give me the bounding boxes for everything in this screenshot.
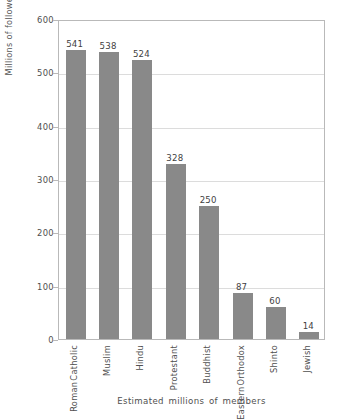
y-axis-tick-label: 0	[24, 335, 54, 345]
y-axis-tick-label: 400	[24, 122, 54, 132]
y-axis-tick-label: 500	[24, 68, 54, 78]
bar-value-label: 328	[159, 153, 191, 163]
x-axis-category-label: EasternOrthodox	[228, 345, 256, 403]
x-axis-category-label: Hindu	[127, 345, 155, 403]
bar	[266, 307, 286, 339]
y-axis-tick-mark	[53, 340, 58, 341]
bar-value-label: 541	[59, 39, 91, 49]
x-axis-category-label: RomanCatholic	[61, 345, 89, 403]
bar	[299, 332, 319, 339]
bar-value-label: 14	[292, 321, 324, 331]
x-axis-category-line: Buddhist	[203, 345, 213, 384]
bar	[199, 206, 219, 339]
x-axis-category-label: Muslim	[94, 345, 122, 403]
bar	[99, 52, 119, 339]
bar	[132, 60, 152, 339]
x-axis-category-label: Protestant	[161, 345, 189, 403]
bar-value-label: 538	[92, 41, 124, 51]
bar-value-label: 87	[226, 282, 258, 292]
bar	[233, 293, 253, 339]
bar-value-label: 60	[259, 296, 291, 306]
bar	[66, 50, 86, 339]
y-axis-title: Millions of followers	[4, 0, 18, 112]
x-axis-category-line: Protestant	[170, 345, 180, 390]
y-axis-tick-label: 600	[24, 15, 54, 25]
bar	[166, 164, 186, 339]
x-axis-category-line: Hindu	[137, 345, 147, 371]
x-axis-category-line: Catholic	[70, 345, 80, 381]
x-axis-category-label: Shinto	[261, 345, 289, 403]
bar-value-label: 524	[125, 49, 157, 59]
x-axis-category-line: Shinto	[270, 345, 280, 373]
x-axis-category-line: Muslim	[103, 345, 113, 376]
x-axis-title: Estimated millions of members	[58, 396, 325, 406]
x-axis-category-label: Jewish	[294, 345, 322, 403]
plot-area	[58, 20, 325, 340]
x-axis-category-line: Jewish	[304, 345, 314, 373]
y-axis-tick-label: 300	[24, 175, 54, 185]
x-axis-category-label: Buddhist	[194, 345, 222, 403]
bar-value-label: 250	[192, 195, 224, 205]
x-axis-category-line: Orthodox	[237, 345, 247, 386]
y-axis-tick-label: 100	[24, 282, 54, 292]
y-axis-tick-label: 200	[24, 228, 54, 238]
